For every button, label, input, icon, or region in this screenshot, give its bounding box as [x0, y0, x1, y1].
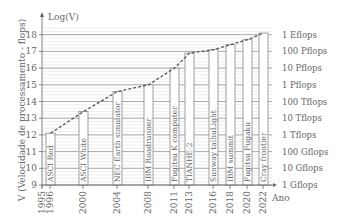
- y-tick-label: 10: [26, 163, 38, 173]
- bar-label: TIANHE-2: [185, 142, 194, 182]
- y-tick-label: 11: [26, 147, 37, 157]
- flops-label: 100 Pflops: [282, 46, 327, 56]
- flops-label: 10 Tflops: [282, 113, 322, 123]
- y-tick-label: 17: [26, 46, 38, 56]
- flops-label: 1 Eflops: [282, 30, 317, 40]
- y-axis-arrow-icon: [40, 12, 44, 17]
- y-tick-label: 9: [31, 180, 37, 190]
- axes: [39, 12, 277, 189]
- bar-label: ASCI White: [79, 137, 88, 183]
- bar-label: Fugitsu Fugaku: [243, 122, 252, 182]
- x-axis-title: Ano: [271, 193, 290, 203]
- chart: ASCI RedASCI WhiteNEC Earth simulatorIBM…: [0, 0, 340, 223]
- x-tick-label: 2008: [143, 191, 153, 214]
- bar-label: IBM summit: [226, 135, 235, 182]
- x-tick-label: 2018: [225, 191, 235, 214]
- bar-label: ASCI Red: [46, 145, 55, 183]
- bar-label: Fugitsu K computer: [170, 106, 179, 182]
- y-tick-label: 12: [26, 130, 37, 140]
- y-axis-title: Log(V): [48, 12, 79, 22]
- flops-label: 10 Pflops: [282, 63, 322, 73]
- flops-label: 10 Gflops: [282, 163, 323, 173]
- flops-label: 1 Pflops: [282, 80, 316, 90]
- bar-label: NEC Earth simulator: [113, 101, 122, 182]
- y-tick-label: 13: [26, 113, 38, 123]
- x-tick-label: 2020: [242, 191, 252, 214]
- x-tick-label: 2013: [184, 191, 194, 214]
- x-tick-label: 2004: [112, 191, 122, 214]
- x-tick-label: 2016: [208, 191, 218, 214]
- y-tick-label: 18: [26, 30, 38, 40]
- flops-label: 1 Tflops: [282, 130, 316, 140]
- x-axis-arrow-icon: [273, 183, 277, 187]
- y-tick-label: 16: [26, 63, 38, 73]
- bar-label: Sunway taihuLight: [209, 110, 218, 182]
- bar-label: IBM Roadrunner: [144, 118, 153, 182]
- gridlines: [42, 28, 272, 185]
- flops-label: 100 Gflops: [282, 147, 328, 157]
- x-tick-label: 2011: [169, 191, 179, 214]
- y-tick-label: 14: [26, 97, 38, 107]
- x-tick-label: 1996: [45, 191, 55, 214]
- bar-label: Cray frontier: [259, 132, 268, 182]
- x-tick-label: 2000: [78, 191, 88, 214]
- flops-label: 100 Tflops: [282, 97, 327, 107]
- x-tick-label: 2022: [258, 191, 268, 214]
- y-axis-label: V (Velocidade de processamento - flops): [17, 19, 27, 202]
- y-tick-label: 15: [26, 80, 38, 90]
- flops-label: 1 Gflops: [282, 180, 318, 190]
